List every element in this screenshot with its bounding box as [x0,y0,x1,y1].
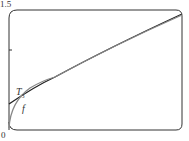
t3-label: T3 [16,87,25,99]
series-f [9,15,182,128]
series-t3 [9,14,182,104]
plot-frame [9,10,182,130]
y-tick-label-max: 1.5 [0,0,11,9]
origin-label: 0 [1,131,6,140]
chart-canvas [0,0,189,141]
f-label: f [22,104,25,114]
